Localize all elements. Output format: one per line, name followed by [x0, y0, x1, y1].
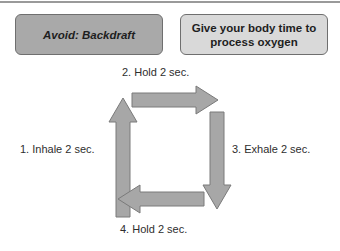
breathing-cycle-arrows: [0, 0, 340, 251]
arrow-right-icon: [132, 86, 218, 114]
arrow-down-icon: [203, 112, 231, 209]
arrow-left-icon: [118, 185, 204, 213]
